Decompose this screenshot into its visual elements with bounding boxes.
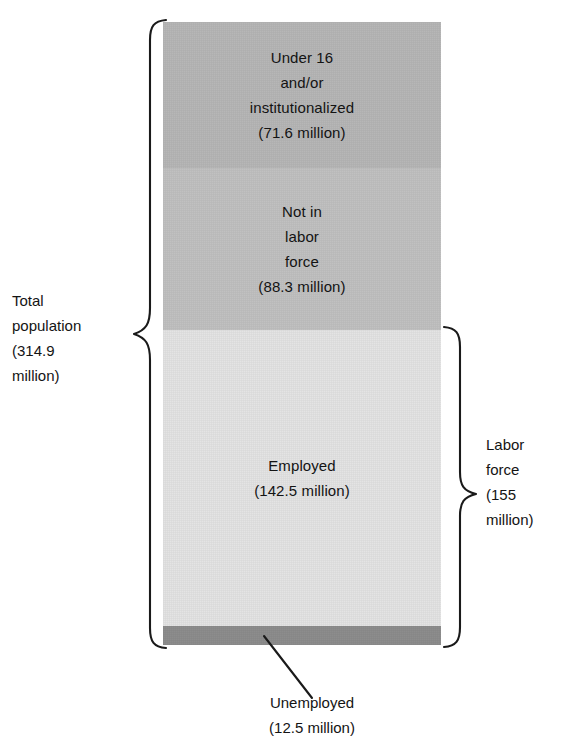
bar-segment-not-in-labor-force: Not in labor force (88.3 million) <box>163 168 441 330</box>
labor-force-label: Labor force (155 million) <box>486 432 564 532</box>
unemployed-caption: Unemployed (12.5 million) <box>212 690 412 740</box>
stacked-bar-chart: Under 16 and/or institutionalized (71.6 … <box>163 22 441 645</box>
bar-segment-under16: Under 16 and/or institutionalized (71.6 … <box>163 22 441 168</box>
bar-segment-employed-label: Employed (142.5 million) <box>254 453 350 503</box>
bar-segment-under16-label: Under 16 and/or institutionalized (71.6 … <box>250 45 354 145</box>
right-brace-icon <box>440 322 486 652</box>
bar-segment-not-in-labor-force-label: Not in labor force (88.3 million) <box>258 199 345 299</box>
bar-segment-employed: Employed (142.5 million) <box>163 330 441 626</box>
bar-segment-unemployed <box>163 626 441 645</box>
total-population-label: Total population (314.9 million) <box>12 288 116 388</box>
